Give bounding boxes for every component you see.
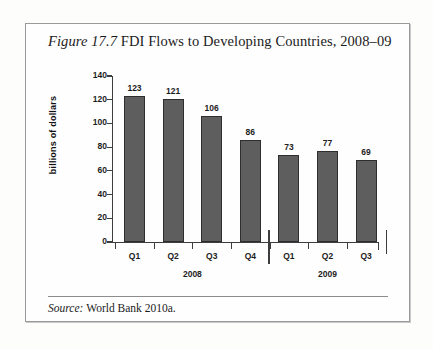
- source-text: World Bank 2010a.: [86, 302, 175, 314]
- y-axis-tick-label: 80: [81, 142, 107, 151]
- x-axis-tick: [192, 243, 193, 249]
- bar-value-label: 123: [118, 84, 152, 93]
- y-axis-tick: [107, 75, 112, 76]
- y-axis-tick-label: 0: [81, 237, 107, 246]
- figure-box: Figure 17.7 FDI Flows to Developing Coun…: [25, 23, 410, 322]
- bar[interactable]: [278, 155, 299, 242]
- x-axis-group-label: 2008: [162, 270, 222, 279]
- x-axis-tick: [347, 243, 348, 249]
- bar[interactable]: [163, 99, 184, 242]
- bar-value-label: 69: [349, 148, 383, 157]
- x-axis-label: Q4: [233, 252, 267, 261]
- y-axis-tick-label-wrap: 60: [75, 166, 107, 176]
- y-axis-tick: [107, 147, 112, 148]
- bar-value-label: 106: [195, 104, 229, 113]
- x-axis-end-tick: [378, 242, 379, 250]
- y-axis-tick-label-wrap: 120: [75, 95, 107, 105]
- y-axis-tick-label: 60: [81, 166, 107, 175]
- x-axis-label: Q1: [272, 252, 306, 261]
- bar-chart: billions of dollars 020406080100120140 1…: [26, 24, 411, 323]
- x-axis-label: Q3: [195, 252, 229, 261]
- y-axis-line: [112, 76, 113, 243]
- x-axis-label: Q1: [118, 252, 152, 261]
- source-note: Source: World Bank 2010a.: [48, 302, 176, 314]
- bar[interactable]: [201, 116, 222, 242]
- bar[interactable]: [317, 151, 338, 242]
- y-axis-tick: [107, 123, 112, 124]
- bar-value-label: 86: [233, 128, 267, 137]
- y-axis-tick-label: 40: [81, 190, 107, 199]
- x-axis-end-separator: [386, 230, 387, 254]
- x-axis-line: [112, 242, 379, 243]
- y-axis-tick-label-wrap: 100: [75, 118, 107, 128]
- x-axis-group-label: 2009: [298, 270, 358, 279]
- y-axis-tick: [107, 218, 112, 219]
- y-axis-tick: [107, 99, 112, 100]
- y-axis-tick: [107, 194, 112, 195]
- y-axis-tick-label-wrap: 40: [75, 190, 107, 200]
- source-label: Source:: [48, 302, 83, 314]
- y-axis-tick-label: 20: [81, 213, 107, 222]
- x-axis-tick: [154, 243, 155, 249]
- y-axis-tick-label-wrap: 140: [75, 71, 107, 81]
- y-axis-tick-label-wrap: 0: [75, 237, 107, 247]
- x-axis-tick: [115, 243, 116, 249]
- x-axis-group-separator: [268, 230, 269, 264]
- x-axis-tick: [231, 243, 232, 249]
- y-axis-tick: [107, 170, 112, 171]
- page-background: Figure 17.7 FDI Flows to Developing Coun…: [0, 0, 433, 349]
- bar[interactable]: [124, 96, 145, 242]
- bar-value-label: 77: [311, 139, 345, 148]
- y-axis-tick-label-wrap: 80: [75, 142, 107, 152]
- x-axis-label: Q3: [349, 252, 383, 261]
- y-axis-tick-label: 100: [81, 118, 107, 127]
- source-divider: [48, 296, 388, 297]
- y-axis-tick: [107, 241, 112, 242]
- y-axis-tick-label: 120: [81, 95, 107, 104]
- bar[interactable]: [356, 160, 377, 242]
- bar-value-label: 73: [272, 143, 306, 152]
- y-axis-tick-label: 140: [81, 71, 107, 80]
- x-axis-label: Q2: [156, 252, 190, 261]
- y-axis-tick-label-wrap: 20: [75, 213, 107, 223]
- bar-value-label: 121: [156, 87, 190, 96]
- y-axis-title: billions of dollars: [48, 75, 58, 195]
- x-axis-label: Q2: [311, 252, 345, 261]
- bar[interactable]: [240, 140, 261, 242]
- x-axis-tick: [308, 243, 309, 249]
